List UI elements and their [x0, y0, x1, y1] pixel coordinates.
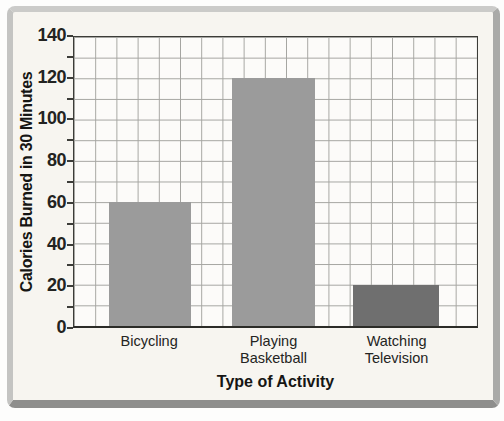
- y-tick-label: 80: [47, 150, 66, 171]
- chart-bar-1: [232, 78, 315, 326]
- category-label-line: Playing: [240, 333, 307, 350]
- y-tick-label: 60: [47, 192, 66, 213]
- chart-bar-2: [353, 285, 440, 326]
- x-axis-title: Type of Activity: [73, 373, 478, 391]
- category-label-line: Television: [365, 350, 429, 367]
- y-tick-label: 20: [47, 275, 66, 296]
- y-tick-label: 40: [47, 234, 66, 255]
- category-label-line: Basketball: [240, 350, 307, 367]
- plot-area: [73, 36, 478, 328]
- chart-bar-0: [109, 202, 191, 326]
- category-label-2: WatchingTelevision: [365, 333, 429, 366]
- figure-page: Calories Burned in 30 Minutes 0204060801…: [0, 0, 504, 421]
- category-label-0: Bicycling: [121, 333, 178, 350]
- category-label-line: Watching: [365, 333, 429, 350]
- y-tick-label: 140: [37, 25, 66, 46]
- category-labels: BicyclingPlayingBasketballWatchingTelevi…: [73, 333, 478, 369]
- y-tick-label: 0: [56, 317, 66, 338]
- category-label-line: Bicycling: [121, 333, 178, 350]
- y-axis-ticks: 020406080100120140: [0, 36, 66, 328]
- category-label-1: PlayingBasketball: [240, 333, 307, 366]
- y-tick-label: 120: [37, 67, 66, 88]
- y-tick-label: 100: [37, 109, 66, 130]
